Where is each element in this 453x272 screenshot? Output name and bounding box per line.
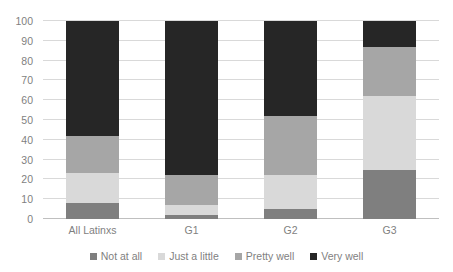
bar-segment-very-well[interactable] — [264, 21, 317, 116]
bar-group-g1[interactable] — [165, 21, 218, 219]
bar-segment-just-a-little[interactable] — [165, 205, 218, 215]
bar-segment-pretty-well[interactable] — [264, 116, 317, 175]
legend-swatch-icon — [235, 253, 242, 260]
bar-segment-just-a-little[interactable] — [363, 96, 416, 169]
legend-label: Very well — [321, 251, 363, 262]
legend-swatch-icon — [158, 253, 165, 260]
y-axis-tick-label: 100 — [15, 16, 33, 27]
y-axis-tick-label: 70 — [21, 75, 33, 86]
legend-item-just-a-little[interactable]: Just a little — [158, 251, 219, 262]
bar-segment-pretty-well[interactable] — [363, 47, 416, 97]
y-axis-tick-label: 10 — [21, 194, 33, 205]
bar-segment-not-at-all[interactable] — [264, 209, 317, 219]
legend-item-pretty-well[interactable]: Pretty well — [235, 251, 294, 262]
bar-segment-very-well[interactable] — [66, 21, 119, 136]
y-axis-tick-label: 80 — [21, 55, 33, 66]
y-axis-tick-label: 50 — [21, 115, 33, 126]
y-axis-tick-label: 60 — [21, 95, 33, 106]
bar-group-all-latinxs[interactable] — [66, 21, 119, 219]
legend-item-very-well[interactable]: Very well — [310, 251, 363, 262]
bar-stack — [264, 21, 317, 219]
bar-segment-very-well[interactable] — [363, 21, 416, 47]
bar-group-g2[interactable] — [264, 21, 317, 219]
x-axis-label-g2: G2 — [241, 225, 340, 236]
bar-segment-just-a-little[interactable] — [66, 173, 119, 203]
bar-segment-not-at-all[interactable] — [165, 215, 218, 219]
y-axis-tick-label: 90 — [21, 36, 33, 47]
legend-label: Just a little — [169, 251, 219, 262]
legend-label: Not at all — [101, 251, 142, 262]
legend-label: Pretty well — [246, 251, 294, 262]
y-axis-tick-label: 30 — [21, 154, 33, 165]
bar-segment-pretty-well[interactable] — [66, 136, 119, 174]
legend-swatch-icon — [310, 253, 317, 260]
bar-segment-just-a-little[interactable] — [264, 175, 317, 209]
bar-stack — [66, 21, 119, 219]
bar-stack — [165, 21, 218, 219]
bar-segment-very-well[interactable] — [165, 21, 218, 175]
y-axis-tick-label: 40 — [21, 135, 33, 146]
y-axis-tick-label: 20 — [21, 174, 33, 185]
plot-area — [43, 21, 439, 219]
legend-swatch-icon — [90, 253, 97, 260]
x-axis-label-g1: G1 — [142, 225, 241, 236]
legend-item-not-at-all[interactable]: Not at all — [90, 251, 142, 262]
bar-stack — [363, 21, 416, 219]
y-axis: 0102030405060708090100 — [0, 21, 38, 219]
x-axis-label-all-latinxs: All Latinxs — [43, 225, 142, 236]
stacked-bar-chart: 0102030405060708090100 All LatinxsG1G2G3… — [0, 0, 453, 272]
chart-legend: Not at allJust a littlePretty wellVery w… — [0, 251, 453, 262]
y-axis-tick-label: 0 — [27, 214, 33, 225]
bar-group-g3[interactable] — [363, 21, 416, 219]
bar-segment-pretty-well[interactable] — [165, 175, 218, 205]
x-axis-label-g3: G3 — [340, 225, 439, 236]
bar-segment-not-at-all[interactable] — [363, 170, 416, 220]
bar-segment-not-at-all[interactable] — [66, 203, 119, 219]
